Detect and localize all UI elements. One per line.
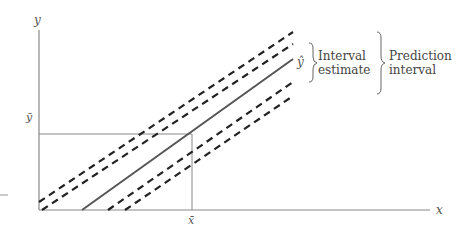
x-axis-label: x — [436, 203, 443, 217]
y-mean-label: ȳ — [25, 111, 33, 124]
x-mean-label: x̄ — [188, 214, 195, 227]
prediction-interval-label-line1: Prediction — [389, 49, 452, 63]
prediction-interval-label-line2: interval — [389, 63, 436, 77]
interval-estimate-label-line2: estimate — [318, 63, 370, 77]
regression-diagram: y x ȳ x̄ ŷ Interval estimate Prediction … — [0, 0, 464, 235]
interval-estimate-brace — [309, 43, 317, 82]
interval-estimate-upper — [42, 44, 293, 210]
prediction-interval-upper — [39, 32, 293, 202]
prediction-interval-lower — [125, 96, 293, 210]
interval-estimate-lower — [108, 82, 293, 210]
prediction-interval-brace — [377, 32, 385, 94]
interval-estimate-label-line1: Interval — [318, 49, 366, 63]
y-hat-label: ŷ — [296, 55, 304, 69]
y-axis-label: y — [33, 13, 41, 27]
